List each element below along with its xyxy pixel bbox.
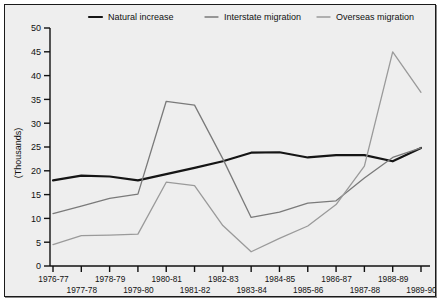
x-tick-label: 1976-77 [38, 274, 69, 284]
y-tick-label: 5 [36, 238, 41, 248]
y-axis-title: (Thousands) [13, 128, 23, 179]
x-tick-label: 1989-90 [406, 285, 435, 295]
x-tick-label: 1977-78 [67, 285, 98, 295]
y-tick-label: 10 [31, 214, 41, 224]
y-tick-label: 35 [31, 95, 41, 105]
x-tick-label: 1982-83 [208, 274, 239, 284]
x-tick-label: 1981-82 [180, 285, 211, 295]
legend-label: Overseas migration [336, 12, 414, 22]
y-axis: 05101520253035404550 [31, 23, 50, 271]
y-tick-label: 0 [36, 261, 41, 271]
y-tick-label: 15 [31, 190, 41, 200]
chart-panel: 05101520253035404550 1976-771977-781978-… [4, 4, 436, 297]
y-tick-label: 30 [31, 119, 41, 129]
x-tick-label: 1984-85 [265, 274, 296, 284]
series-line-overseas-migration [53, 52, 421, 252]
y-tick-label: 50 [31, 23, 41, 33]
legend-item: Interstate migration [205, 12, 301, 22]
x-tick-label: 1983-84 [236, 285, 267, 295]
x-axis: 1976-771977-781978-791979-801980-811981-… [38, 266, 435, 295]
y-tick-label: 45 [31, 47, 41, 57]
legend-label: Interstate migration [224, 12, 301, 22]
chart-legend: Natural increaseInterstate migrationOver… [89, 12, 414, 22]
x-tick-label: 1985-86 [293, 285, 324, 295]
x-tick-label: 1988-89 [378, 274, 409, 284]
y-tick-label: 25 [31, 142, 41, 152]
x-tick-label: 1978-79 [95, 274, 126, 284]
x-tick-label: 1986-87 [321, 274, 352, 284]
y-tick-label: 40 [31, 71, 41, 81]
line-chart: 05101520253035404550 1976-771977-781978-… [5, 5, 435, 296]
legend-item: Overseas migration [317, 12, 414, 22]
x-tick-label: 1980-81 [152, 274, 183, 284]
data-series-group [53, 52, 421, 252]
series-line-natural-increase [53, 148, 421, 180]
x-tick-label: 1987-88 [350, 285, 381, 295]
y-tick-label: 20 [31, 166, 41, 176]
x-tick-label: 1979-80 [123, 285, 154, 295]
legend-label: Natural increase [108, 12, 174, 22]
legend-item: Natural increase [89, 12, 174, 22]
